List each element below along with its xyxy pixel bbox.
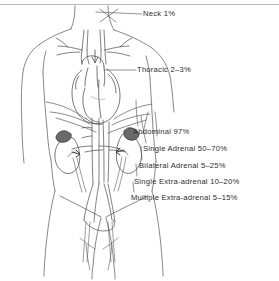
label-multiple-extra-adrenal: Multiple Extra-adrenal 5–15% — [131, 194, 238, 202]
label-abdominal: Abdominal 97% — [133, 128, 189, 136]
label-thoracic: Thoracic 2–3% — [137, 66, 191, 74]
left-kidney — [55, 137, 80, 174]
great-vessels — [56, 30, 132, 64]
label-bilateral-adrenal: Bilateral Adrenal 5–25% — [139, 162, 226, 170]
ureters — [73, 157, 126, 192]
label-neck: Neck 1% — [143, 10, 175, 18]
anatomy-illustration — [0, 0, 279, 281]
anatomical-figure: Neck 1% Thoracic 2–3% Abdominal 97% Sing… — [0, 0, 279, 281]
label-single-adrenal: Single Adrenal 50–70% — [143, 145, 227, 153]
body-outline — [21, 6, 174, 279]
left-adrenal-gland — [56, 131, 71, 142]
label-single-extra-adrenal: Single Extra-adrenal 10–20% — [134, 178, 240, 186]
